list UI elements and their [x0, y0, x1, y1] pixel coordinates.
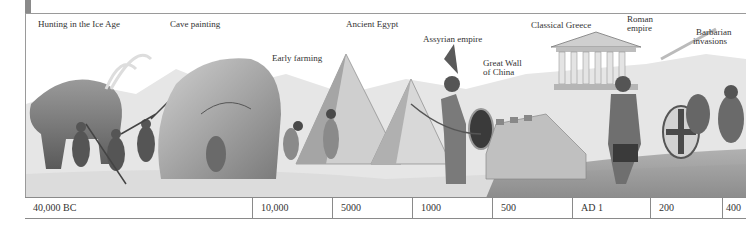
- date-cell-400: 400: [722, 198, 746, 218]
- event-label-classical-greece: Classical Greece: [531, 20, 591, 30]
- event-label-ancient-egypt: Ancient Egypt: [346, 19, 398, 29]
- date-cell-ad1: AD 1: [572, 198, 650, 218]
- event-label-hunting-ice-age: Hunting in the Ice Age: [38, 19, 120, 29]
- header-accent-bar: [25, 0, 31, 14]
- timeline-illustration: [26, 14, 746, 198]
- event-label-roman-empire-line2: empire: [627, 23, 652, 33]
- event-label-great-wall-line2: of China: [483, 67, 514, 77]
- timeline-date-row: 40,000 BC 10,000 5000 1000 500 AD 1 200 …: [25, 197, 746, 219]
- event-label-cave-painting: Cave painting: [170, 19, 220, 29]
- date-cell-5000: 5000: [332, 198, 412, 218]
- event-label-early-farming: Early farming: [272, 53, 322, 63]
- date-cell-1000: 1000: [412, 198, 492, 218]
- date-cell-40000bc: 40,000 BC: [25, 198, 252, 218]
- event-label-assyrian-empire: Assyrian empire: [423, 34, 482, 44]
- date-cell-500: 500: [492, 198, 572, 218]
- date-cell-200: 200: [650, 198, 722, 218]
- event-label-barbarian-line2: invasions: [693, 36, 727, 46]
- date-cell-10000: 10,000: [252, 198, 332, 218]
